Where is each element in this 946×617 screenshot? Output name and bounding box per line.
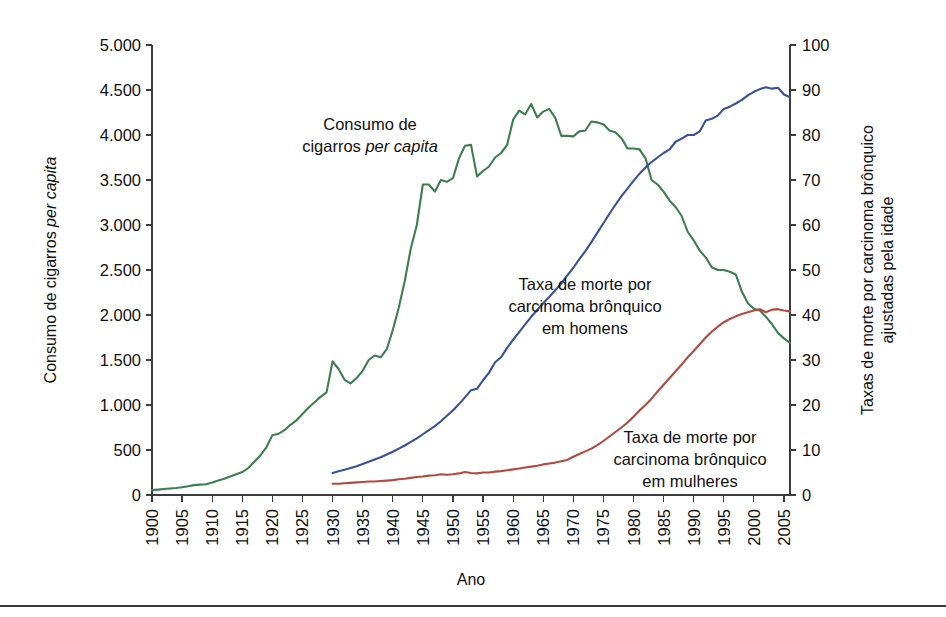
right-axis-tick-label: 10 [802,441,820,459]
left-axis-title: Consumo de cigarros per capita [42,157,59,384]
x-axis-tick-label: 1960 [504,509,522,546]
x-axis-tick-label: 1965 [534,509,552,546]
annotation-cigarette-consumption-line-1: Consumo de [323,115,417,133]
left-axis-tick-label: 500 [113,441,141,459]
left-axis-tick-label: 4.000 [100,126,141,144]
right-axis-tick-label: 60 [802,216,820,234]
x-axis-tick-label: 1925 [293,509,311,546]
annotation-male-death-rate-line-1: Taxa de morte por [519,275,652,293]
annotation-female-death-rate-line-3: em mulheres [642,472,737,490]
right-axis-title-line-2: ajustadas pela idade [879,197,896,344]
left-axis-tick-label: 5.000 [100,36,141,54]
right-axis-tick-label: 40 [802,306,820,324]
annotation-cigarette-consumption-line-2: cigarros per capita [302,137,438,155]
right-axis-title-line-1: Taxas de morte por carcinoma brônquico [859,125,876,415]
x-axis-tick-label: 1900 [143,509,161,546]
left-axis-tick-label: 1.000 [100,396,141,414]
left-axis-tick-label: 2.500 [100,261,141,279]
annotation-male-death-rate-line-2: carcinoma brônquico [508,297,661,315]
x-axis-tick-label: 2005 [775,509,793,546]
x-axis-title: Ano [457,571,486,588]
annotation-female-death-rate-line-1: Taxa de morte por [624,428,757,446]
x-axis-tick-label: 1905 [173,509,191,546]
chart-figure: 05001.0001.5002.0002.5003.0003.5004.0004… [0,0,946,617]
left-axis-tick-label: 4.500 [100,81,141,99]
x-axis-tick-label: 1975 [594,509,612,546]
x-axis-tick-label: 1955 [474,509,492,546]
annotation-cigarette-consumption: Consumo decigarros per capita [302,115,438,155]
dual-axis-line-chart: 05001.0001.5002.0002.5003.0003.5004.0004… [0,0,946,617]
right-axis-tick-label: 70 [802,171,820,189]
x-axis-tick-label: 1915 [233,509,251,546]
right-axis-tick-label: 90 [802,81,820,99]
left-axis-tick-label: 2.000 [100,306,141,324]
left-axis-tick-label: 3.500 [100,171,141,189]
x-axis-tick-label: 1935 [354,509,372,546]
x-axis-tick-label: 1930 [324,509,342,546]
right-axis-tick-label: 80 [802,126,820,144]
annotation-male-death-rate: Taxa de morte porcarcinoma brônquicoem h… [508,275,661,337]
right-axis-tick-label: 100 [802,36,830,54]
annotation-female-death-rate: Taxa de morte porcarcinoma brônquicoem m… [613,428,766,490]
annotation-female-death-rate-line-2: carcinoma brônquico [613,450,766,468]
x-axis-tick-label: 1950 [444,509,462,546]
x-axis-tick-label: 1940 [384,509,402,546]
left-axis-title-plain: Consumo de cigarros [42,227,59,384]
footer-divider [0,605,946,607]
x-axis-tick-label: 1990 [685,509,703,546]
x-axis-tick-label: 1980 [625,509,643,546]
left-axis-tick-label: 1.500 [100,351,141,369]
right-axis-tick-label: 20 [802,396,820,414]
left-axis-tick-label: 3.000 [100,216,141,234]
right-axis-tick-label: 30 [802,351,820,369]
right-axis-tick-label: 50 [802,261,820,279]
x-axis-tick-label: 1995 [715,509,733,546]
left-axis-tick-label: 0 [132,486,141,504]
x-axis-tick-label: 1910 [203,509,221,546]
x-axis-tick-label: 1945 [414,509,432,546]
annotation-male-death-rate-line-3: em homens [542,319,628,337]
x-axis-tick-label: 2000 [745,509,763,546]
x-axis-tick-label: 1985 [655,509,673,546]
right-axis-tick-label: 0 [802,486,811,504]
x-axis-tick-label: 1970 [564,509,582,546]
x-axis-tick-label: 1920 [263,509,281,546]
left-axis-title-italic: per capita [42,157,59,228]
